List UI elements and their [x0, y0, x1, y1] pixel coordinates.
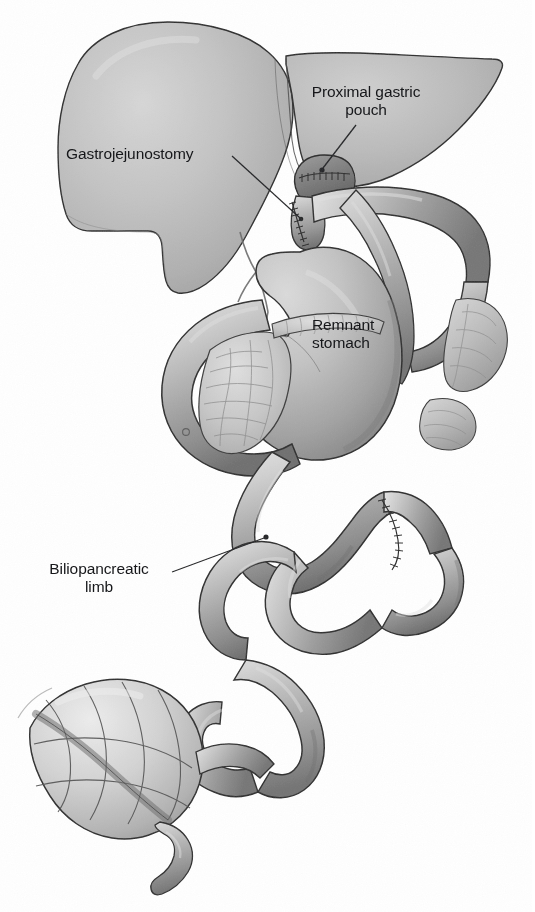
- leader-dot-gastrojejunostomy: [299, 217, 304, 222]
- clipped-caption-text: [8, 902, 12, 912]
- leader-dot-biliopancreatic-limb: [263, 534, 268, 539]
- illustration-figure: Proximal gastric pouch Gastrojejunostomy…: [0, 0, 535, 912]
- clipped-caption-strip: [0, 902, 535, 912]
- anatomy-illustration-canvas: [0, 0, 535, 912]
- leader-dot-proximal-gastric-pouch: [319, 167, 324, 172]
